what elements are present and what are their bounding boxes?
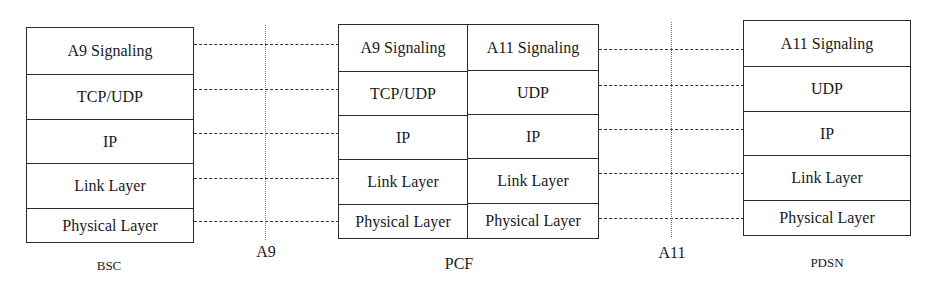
bsc-layer-ip: IP xyxy=(27,119,193,163)
bsc-layer-tcp-udp: TCP/UDP xyxy=(27,74,193,119)
pcf-left-layer-link: Link Layer xyxy=(339,159,467,204)
bsc-label: BSC xyxy=(97,258,122,274)
pcf-right-layer-link: Link Layer xyxy=(468,158,598,203)
pcf-left-layer-physical: Physical Layer xyxy=(339,204,467,238)
pcf-stack: A9 Signaling TCP/UDP IP Link Layer Physi… xyxy=(338,24,599,239)
pdsn-layer-link: Link Layer xyxy=(744,155,910,200)
pdsn-stack: A11 Signaling UDP IP Link Layer Physical… xyxy=(743,20,911,236)
connector-ip-a9 xyxy=(194,133,339,134)
pcf-left-layer-tcp-udp: TCP/UDP xyxy=(339,71,467,115)
connector-tcp-udp xyxy=(194,89,339,90)
pcf-right-layer-physical: Physical Layer xyxy=(468,203,598,238)
pcf-left-layer-ip: IP xyxy=(339,115,467,159)
a11-reference-line xyxy=(671,22,672,237)
pcf-left-column: A9 Signaling TCP/UDP IP Link Layer Physi… xyxy=(339,25,467,238)
pcf-right-layer-udp: UDP xyxy=(468,70,598,114)
connector-link-a9 xyxy=(194,178,339,179)
pdsn-label: PDSN xyxy=(810,255,843,271)
pdsn-layer-ip: IP xyxy=(744,111,910,155)
pcf-left-layer-a9-signaling: A9 Signaling xyxy=(339,25,467,71)
pcf-right-column: A11 Signaling UDP IP Link Layer Physical… xyxy=(468,25,598,238)
a11-interface-label: A11 xyxy=(659,244,686,262)
pcf-label: PCF xyxy=(445,255,473,273)
connector-a9-signaling xyxy=(194,44,339,45)
bsc-stack: A9 Signaling TCP/UDP IP Link Layer Physi… xyxy=(26,27,194,243)
a9-interface-label: A9 xyxy=(256,243,276,261)
pcf-right-layer-a11-signaling: A11 Signaling xyxy=(468,25,598,70)
bsc-layer-link: Link Layer xyxy=(27,163,193,208)
pdsn-layer-physical: Physical Layer xyxy=(744,200,910,235)
pcf-right-layer-ip: IP xyxy=(468,114,598,158)
connector-physical-a9 xyxy=(194,221,339,222)
pdsn-layer-udp: UDP xyxy=(744,66,910,111)
bsc-layer-physical: Physical Layer xyxy=(27,208,193,242)
bsc-layer-a9-signaling: A9 Signaling xyxy=(27,28,193,74)
pdsn-layer-a11-signaling: A11 Signaling xyxy=(744,21,910,66)
